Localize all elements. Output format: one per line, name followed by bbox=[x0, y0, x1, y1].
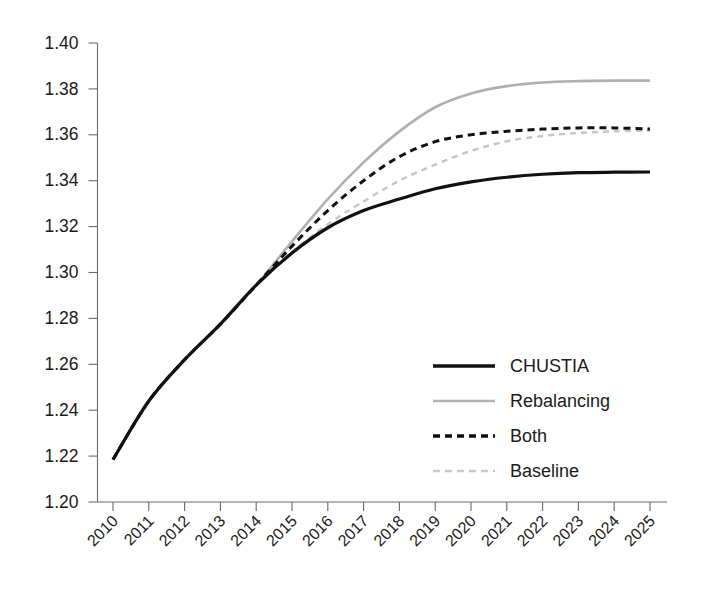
legend-label-both: Both bbox=[510, 426, 547, 446]
y-tick-label: 1.36 bbox=[44, 124, 78, 144]
x-tick-label: 2013 bbox=[191, 512, 228, 549]
x-tick-label: 2011 bbox=[121, 512, 157, 548]
y-axis-tick-group: 1.201.221.241.261.281.301.321.341.361.38… bbox=[44, 33, 97, 512]
y-tick-label: 1.28 bbox=[44, 308, 78, 328]
chart-legend: CHUSTIARebalancingBothBaseline bbox=[433, 356, 610, 481]
legend-label-chustia: CHUSTIA bbox=[510, 356, 589, 376]
legend-label-baseline: Baseline bbox=[510, 461, 579, 481]
y-tick-label: 1.34 bbox=[44, 170, 78, 190]
x-tick-label: 2021 bbox=[478, 512, 515, 549]
line-chart: 1.201.221.241.261.281.301.321.341.361.38… bbox=[0, 0, 702, 595]
chart-canvas: 1.201.221.241.261.281.301.321.341.361.38… bbox=[0, 0, 702, 595]
y-tick-label: 1.32 bbox=[44, 216, 78, 236]
x-tick-label: 2014 bbox=[227, 512, 264, 549]
x-tick-label: 2019 bbox=[406, 512, 443, 549]
x-tick-label: 2012 bbox=[156, 512, 193, 549]
y-tick-label: 1.24 bbox=[44, 400, 78, 420]
y-tick-label: 1.38 bbox=[44, 79, 78, 99]
x-tick-label: 2010 bbox=[84, 512, 121, 549]
x-axis-tick-group: 2010201120122013201420152016201720182019… bbox=[84, 502, 658, 549]
x-tick-label: 2018 bbox=[370, 512, 407, 549]
y-tick-label: 1.30 bbox=[44, 262, 78, 282]
x-tick-label: 2020 bbox=[442, 512, 479, 549]
x-tick-label: 2017 bbox=[335, 512, 372, 549]
x-tick-label: 2025 bbox=[621, 512, 658, 549]
axis-group bbox=[98, 43, 668, 502]
y-tick-label: 1.22 bbox=[44, 446, 78, 466]
x-tick-label: 2022 bbox=[514, 512, 551, 549]
x-tick-label: 2023 bbox=[549, 512, 586, 549]
y-tick-label: 1.26 bbox=[44, 354, 78, 374]
series-line-chustia bbox=[113, 172, 650, 460]
y-tick-label: 1.20 bbox=[44, 492, 78, 512]
y-tick-label: 1.40 bbox=[44, 33, 78, 53]
x-tick-label: 2016 bbox=[299, 512, 336, 549]
legend-label-rebalancing: Rebalancing bbox=[510, 391, 610, 411]
x-tick-label: 2015 bbox=[263, 512, 300, 549]
x-tick-label: 2024 bbox=[585, 512, 622, 549]
